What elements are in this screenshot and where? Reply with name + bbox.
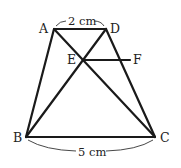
diagonal-BD xyxy=(26,29,106,137)
dimension-arc-bottom-right xyxy=(106,140,153,151)
segment-AB xyxy=(26,29,54,137)
dimension-arc-top-left xyxy=(56,21,66,26)
dimension-bottom: 5 cm xyxy=(78,145,106,159)
dimension-top: 2 cm xyxy=(68,14,96,28)
point-label-A: A xyxy=(38,21,49,36)
point-label-C: C xyxy=(160,130,170,145)
segment-DC xyxy=(106,29,155,137)
trapezoid-diagram: A D E F B C 2 cm 5 cm xyxy=(0,0,181,168)
point-label-D: D xyxy=(110,21,120,36)
point-label-E: E xyxy=(67,52,76,67)
point-label-B: B xyxy=(13,130,22,145)
dimension-arc-bottom-left xyxy=(28,140,76,151)
diagonal-AC xyxy=(54,29,155,137)
point-label-F: F xyxy=(133,52,142,67)
